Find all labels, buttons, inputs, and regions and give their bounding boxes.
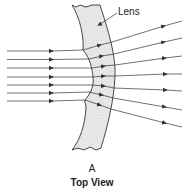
- lens-label: Lens: [118, 6, 140, 17]
- figure-letter: A: [0, 163, 184, 174]
- incoming-rays: [7, 50, 93, 101]
- lens-body: [72, 5, 115, 150]
- figure-caption: Top View: [0, 177, 184, 188]
- outgoing-rays: [111, 21, 182, 127]
